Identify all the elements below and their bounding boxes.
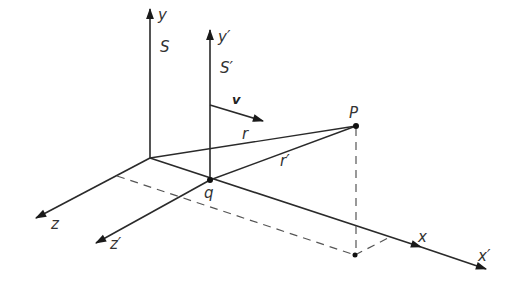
label-s: S	[160, 38, 170, 56]
x-parallel-line	[355, 237, 390, 255]
label-z: z	[50, 215, 60, 233]
point-p	[353, 123, 359, 129]
projection-foot	[353, 253, 358, 258]
label-y-prime: y′	[217, 28, 231, 46]
label-q: q	[204, 184, 214, 202]
label-s-prime: S′	[220, 59, 234, 77]
label-z-prime: z′	[109, 235, 122, 253]
velocity-vector	[210, 105, 263, 121]
r-vector	[150, 126, 356, 158]
label-r: r	[242, 125, 249, 143]
z-axis	[36, 158, 150, 218]
label-x: x	[417, 228, 427, 246]
z-parallel-line	[117, 176, 355, 255]
label-r-prime: r′	[280, 152, 290, 170]
x-axis	[150, 158, 421, 247]
x-prime-axis	[421, 247, 486, 269]
z-prime-axis	[96, 180, 210, 243]
label-x-prime: x′	[477, 247, 491, 265]
label-v: v	[232, 92, 241, 107]
charge-q	[207, 177, 213, 183]
frames-diagram: y S y′ S′ v r r′ P q z z′ x x′	[0, 0, 517, 281]
label-p: P	[349, 104, 359, 122]
label-y: y	[157, 6, 168, 24]
